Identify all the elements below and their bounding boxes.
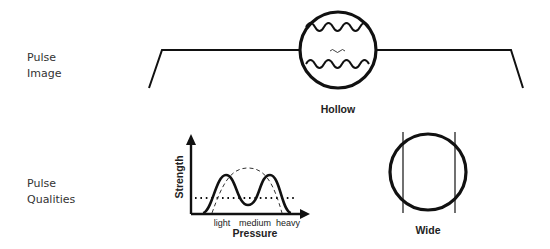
hollow-caption: Hollow xyxy=(313,103,363,115)
x-axis-label: Pressure xyxy=(233,227,278,239)
strength-pressure-chart: light medium heavy Pressure Strength xyxy=(173,134,310,239)
wide-pulse-icon xyxy=(390,132,466,213)
pulse-baseline xyxy=(149,50,523,88)
tick-heavy: heavy xyxy=(276,218,301,228)
pulse-diagram: light medium heavy Pressure Strength xyxy=(0,0,550,249)
tick-light: light xyxy=(214,218,231,228)
y-axis-label: Strength xyxy=(173,155,185,198)
wide-caption: Wide xyxy=(403,224,453,236)
hollow-pulse-icon xyxy=(300,12,376,88)
